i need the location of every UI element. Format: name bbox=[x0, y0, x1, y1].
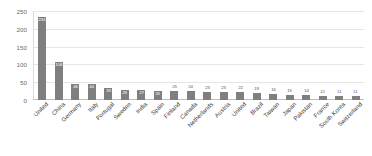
y-axis-tick: 50 bbox=[20, 79, 27, 86]
bar-slot: 24 bbox=[183, 11, 200, 100]
bar[interactable]: 108 bbox=[55, 62, 63, 100]
bar[interactable]: 33 bbox=[104, 88, 112, 100]
bar[interactable]: 234 bbox=[38, 17, 46, 100]
bar-value-label: 16 bbox=[271, 88, 276, 92]
bar-series: 2341084644332827262524232322191615141211… bbox=[34, 11, 364, 100]
bar-slot: 16 bbox=[265, 11, 282, 100]
bar[interactable]: 26 bbox=[154, 91, 162, 100]
bar-value-label: 33 bbox=[106, 89, 111, 93]
bar-slot: 234 bbox=[34, 11, 51, 100]
x-axis-category-label: Austria bbox=[213, 101, 231, 119]
bar-slot: 27 bbox=[133, 11, 150, 100]
bar-slot: 12 bbox=[315, 11, 332, 100]
bar-slot: 108 bbox=[51, 11, 68, 100]
x-axis-category-label: United bbox=[33, 101, 50, 118]
bar[interactable]: 28 bbox=[121, 90, 129, 100]
bar[interactable]: 27 bbox=[137, 90, 145, 100]
bar-value-label: 12 bbox=[320, 90, 325, 94]
bar-chart: 250200150100500 234108464433282726252423… bbox=[0, 0, 372, 156]
bar[interactable]: 22 bbox=[236, 92, 244, 100]
bar-slot: 22 bbox=[232, 11, 249, 100]
bar-slot: 23 bbox=[199, 11, 216, 100]
x-axis-category-label: Taiwan bbox=[263, 101, 281, 119]
bar[interactable]: 19 bbox=[253, 93, 261, 100]
bar[interactable]: 15 bbox=[286, 95, 294, 100]
bar-slot: 28 bbox=[117, 11, 134, 100]
bar[interactable]: 23 bbox=[203, 92, 211, 100]
bar-value-label: 108 bbox=[55, 63, 62, 67]
y-axis-tick: 0 bbox=[23, 97, 27, 104]
bar[interactable]: 44 bbox=[88, 84, 96, 100]
x-axis-category-label: United bbox=[231, 101, 248, 118]
bar[interactable]: 24 bbox=[187, 91, 195, 100]
bar[interactable]: 11 bbox=[352, 96, 360, 100]
bar-value-label: 27 bbox=[139, 92, 144, 96]
bar-value-label: 24 bbox=[188, 86, 193, 90]
bar-slot: 25 bbox=[166, 11, 183, 100]
bar-value-label: 22 bbox=[238, 86, 243, 90]
bar-value-label: 25 bbox=[172, 85, 177, 89]
bar[interactable]: 16 bbox=[269, 94, 277, 100]
bar[interactable]: 46 bbox=[71, 84, 79, 100]
bar[interactable]: 12 bbox=[319, 96, 327, 100]
bar-slot: 11 bbox=[348, 11, 365, 100]
bar[interactable]: 23 bbox=[220, 92, 228, 100]
bar-value-label: 11 bbox=[353, 90, 358, 94]
x-axis-category-label: Sweden bbox=[112, 101, 132, 121]
y-axis-tick: 150 bbox=[16, 43, 27, 50]
bar-slot: 15 bbox=[282, 11, 299, 100]
bar-value-label: 11 bbox=[337, 90, 342, 94]
bar-slot: 26 bbox=[150, 11, 167, 100]
x-axis-labels: UnitedChinaGermanyItalyPortugalSwedenInd… bbox=[34, 101, 364, 156]
bar-value-label: 28 bbox=[122, 91, 127, 95]
bar-slot: 46 bbox=[67, 11, 84, 100]
bar-value-label: 23 bbox=[205, 86, 210, 90]
bar-value-label: 19 bbox=[254, 87, 259, 91]
bar-slot: 19 bbox=[249, 11, 266, 100]
bar-value-label: 14 bbox=[304, 89, 309, 93]
bar[interactable]: 14 bbox=[302, 95, 310, 100]
bar-slot: 33 bbox=[100, 11, 117, 100]
y-axis-tick: 100 bbox=[16, 61, 27, 68]
bar-slot: 14 bbox=[298, 11, 315, 100]
bar-slot: 44 bbox=[84, 11, 101, 100]
x-axis-category-label: Italy bbox=[87, 101, 99, 113]
x-axis-category-label: India bbox=[135, 101, 149, 115]
bar-value-label: 15 bbox=[287, 89, 292, 93]
bar-value-label: 234 bbox=[39, 18, 46, 22]
bar-value-label: 26 bbox=[155, 92, 160, 96]
bar[interactable]: 11 bbox=[335, 96, 343, 100]
bar-value-label: 46 bbox=[73, 85, 78, 89]
y-axis-tick: 200 bbox=[16, 25, 27, 32]
bar-slot: 11 bbox=[331, 11, 348, 100]
bar[interactable]: 25 bbox=[170, 91, 178, 100]
y-axis: 250200150100500 bbox=[0, 11, 31, 100]
bar-value-label: 23 bbox=[221, 86, 226, 90]
bar-value-label: 44 bbox=[89, 85, 94, 89]
bar-slot: 23 bbox=[216, 11, 233, 100]
y-axis-tick: 250 bbox=[16, 8, 27, 15]
